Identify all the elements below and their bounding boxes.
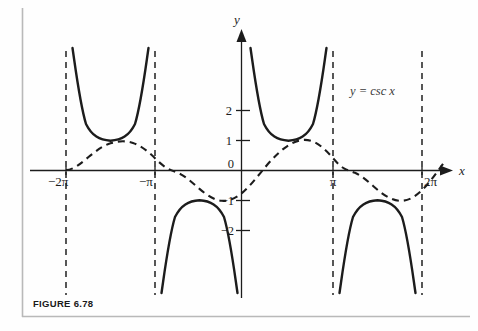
x-tick-label-pi: π (330, 174, 337, 189)
y-tick-label-neg1: −1 (221, 194, 234, 208)
figure-caption: FIGURE 6.78 (33, 298, 93, 309)
y-axis-label: y (232, 12, 240, 27)
curve-equation-label: y = csc x (348, 84, 395, 98)
y-tick-label-1: 1 (226, 134, 232, 148)
x-tick-label-2pi: 2π (424, 174, 438, 189)
origin-label: 0 (228, 157, 234, 171)
x-axis-label: x (458, 163, 465, 178)
x-tick-label-minus-pi: −π (139, 174, 153, 189)
csc-branch-3 (251, 48, 327, 141)
y-tick-label-2: 2 (226, 104, 232, 118)
figure-container: y x 2 1 −1 −2 0 −2π −π π 2π y = csc x FI… (0, 0, 478, 331)
y-axis-arrowhead (237, 29, 247, 42)
csc-branch-1 (73, 48, 149, 141)
csc-branch-4 (340, 200, 416, 293)
x-tick-label-minus-2pi: −2π (48, 174, 69, 189)
csc-branch-2 (162, 200, 238, 293)
y-tick-label-neg2: −2 (221, 224, 234, 238)
graph-canvas: y x 2 1 −1 −2 0 −2π −π π 2π y = csc x (0, 0, 478, 331)
